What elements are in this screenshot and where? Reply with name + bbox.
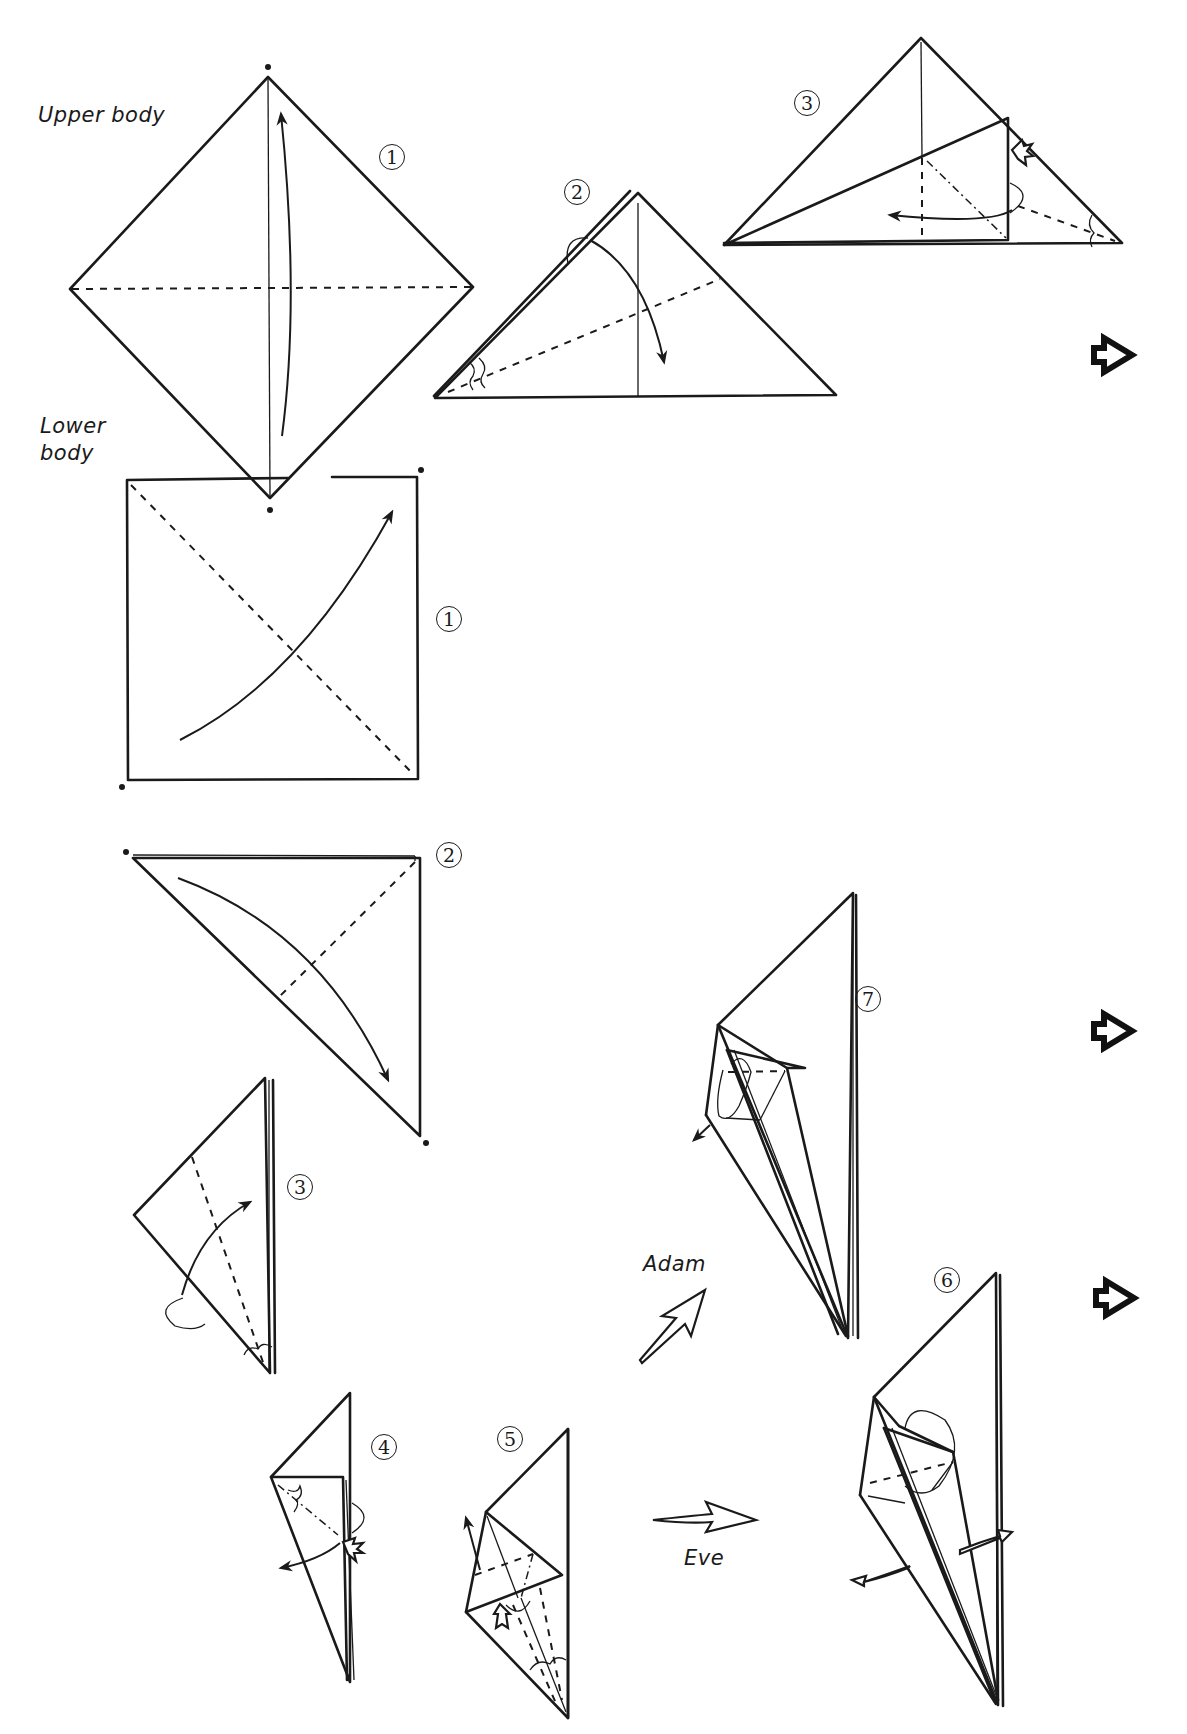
lower-step-1-number: 1 (436, 606, 462, 632)
lower-body-step-7-adam (694, 893, 858, 1338)
lower-step-5-number: 5 (497, 1426, 523, 1452)
lower-step-2-number: 2 (436, 842, 462, 868)
lower-body-step-6 (852, 1273, 1012, 1706)
adam-label: Adam (643, 1252, 706, 1276)
upper-body-label: Upper body (38, 103, 165, 127)
fold-arrow-icon (180, 512, 392, 740)
lower-body-step-2-triangle (123, 849, 429, 1146)
lower-body-step-4 (271, 1393, 364, 1682)
upper-body-step-1-diamond (70, 64, 473, 498)
fold-arrow-icon (466, 1518, 480, 1570)
lower-body-step-1-square (119, 467, 424, 790)
lower-step-4-number: 4 (371, 1434, 397, 1460)
upper-body-step-3-triangle (724, 38, 1122, 247)
upper-step-3-number: 3 (794, 90, 820, 116)
next-step-arrow-icon (1094, 1014, 1132, 1048)
fold-arrow-icon (694, 1125, 710, 1140)
reference-dot-icon (418, 467, 424, 473)
next-step-arrow-icon (1096, 1281, 1134, 1315)
lower-step-6-number: 6 (934, 1267, 960, 1293)
reference-dot-icon (267, 507, 273, 513)
upper-step-2-number: 2 (564, 179, 590, 205)
reference-dot-icon (119, 784, 125, 790)
lower-step-7-number: 7 (855, 986, 881, 1012)
reference-dot-icon (423, 1140, 429, 1146)
lower-body-label: Lower body (40, 413, 120, 467)
origami-diagram-canvas (0, 0, 1187, 1734)
eve-direction-arrow-icon (653, 1502, 756, 1532)
eve-label: Eve (684, 1546, 724, 1570)
lower-body-step-5 (466, 1429, 568, 1718)
reference-dot-icon (123, 849, 129, 855)
next-step-arrow-icon (1094, 338, 1132, 372)
lower-step-3-number: 3 (287, 1174, 313, 1200)
adam-direction-arrow-icon (640, 1290, 705, 1363)
reference-dot-icon (265, 64, 271, 70)
fold-arrow-icon (852, 1566, 910, 1586)
lower-body-step-3-kite (134, 1078, 275, 1373)
upper-step-1-number: 1 (379, 144, 405, 170)
